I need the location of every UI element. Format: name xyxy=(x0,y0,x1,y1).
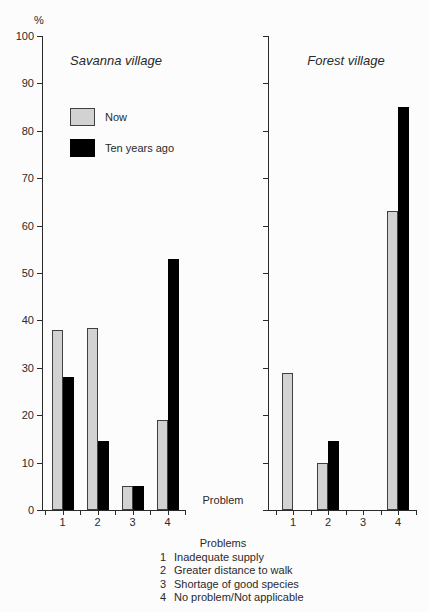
x-tick xyxy=(293,511,294,515)
y-axis xyxy=(42,36,43,510)
bar-now xyxy=(317,463,328,510)
x-tick xyxy=(80,511,81,515)
problem-key-label: Greater distance to walk xyxy=(174,564,293,576)
x-tick xyxy=(363,511,364,515)
problem-key-row: 2 Greater distance to walk xyxy=(140,564,293,576)
x-tick xyxy=(63,511,64,515)
x-tick xyxy=(115,511,116,515)
legend-now-label: Now xyxy=(105,111,127,123)
y-tick-label: 30 xyxy=(7,362,34,374)
x-category-label: 3 xyxy=(353,516,373,528)
chart-figure: 010203040506070809010012341234 % Savanna… xyxy=(0,0,429,612)
legend-ten-years-ago-row: Ten years ago xyxy=(70,138,174,157)
x-tick xyxy=(185,511,186,515)
y-tick xyxy=(263,510,268,511)
legend-ten-years-ago-label: Ten years ago xyxy=(105,142,174,154)
x-tick xyxy=(150,511,151,515)
bar-now xyxy=(157,420,168,510)
bar-now xyxy=(282,373,293,510)
problems-key-title: Problems xyxy=(161,537,285,549)
y-tick xyxy=(263,368,268,369)
bar-ten-years-ago xyxy=(98,441,109,510)
x-category-label: 2 xyxy=(88,516,108,528)
bar-ten-years-ago xyxy=(168,259,179,510)
y-tick-label: 100 xyxy=(7,30,34,42)
bar-ten-years-ago xyxy=(328,441,339,510)
y-tick-label: 40 xyxy=(7,314,34,326)
y-tick-label: 20 xyxy=(7,409,34,421)
y-tick xyxy=(37,320,42,321)
y-tick xyxy=(263,320,268,321)
x-axis xyxy=(42,510,186,511)
bar-now xyxy=(387,211,398,510)
y-tick xyxy=(37,36,42,37)
x-tick xyxy=(276,511,277,515)
bar-ten-years-ago xyxy=(398,107,409,510)
y-axis xyxy=(268,36,269,510)
x-category-label: 2 xyxy=(318,516,338,528)
y-tick xyxy=(263,273,268,274)
problem-key-row: 1 Inadequate supply xyxy=(140,551,264,563)
bar-now xyxy=(87,328,98,510)
legend-now-swatch xyxy=(70,108,95,126)
y-tick xyxy=(37,368,42,369)
y-tick-label: 10 xyxy=(7,457,34,469)
forest-title: Forest village xyxy=(268,53,424,68)
x-tick xyxy=(346,511,347,515)
y-tick xyxy=(37,83,42,84)
x-category-label: 3 xyxy=(123,516,143,528)
y-tick xyxy=(263,36,268,37)
y-tick-label: 0 xyxy=(7,504,34,516)
y-tick xyxy=(37,131,42,132)
problem-key-number: 1 xyxy=(140,551,166,563)
y-tick xyxy=(37,226,42,227)
x-tick xyxy=(398,511,399,515)
x-category-label: 1 xyxy=(53,516,73,528)
x-axis xyxy=(268,510,417,511)
bar-now xyxy=(122,486,133,510)
savanna-title: Savanna village xyxy=(42,53,190,68)
problem-key-number: 4 xyxy=(140,591,166,603)
problem-key-label: Shortage of good species xyxy=(174,578,299,590)
x-tick xyxy=(328,511,329,515)
x-tick xyxy=(45,511,46,515)
x-category-label: 4 xyxy=(388,516,408,528)
x-tick xyxy=(416,511,417,515)
y-tick xyxy=(263,463,268,464)
x-tick xyxy=(311,511,312,515)
x-category-label: 4 xyxy=(158,516,178,528)
problem-axis-label: Problem xyxy=(196,494,250,506)
chart-canvas: 010203040506070809010012341234 xyxy=(0,0,429,612)
x-category-label: 1 xyxy=(283,516,303,528)
y-axis-unit-label: % xyxy=(29,14,49,26)
legend-now-row: Now xyxy=(70,107,127,126)
legend-ten-years-ago-swatch xyxy=(70,139,95,157)
y-tick-label: 90 xyxy=(7,77,34,89)
y-tick-label: 50 xyxy=(7,267,34,279)
y-tick xyxy=(263,415,268,416)
y-tick xyxy=(37,415,42,416)
problem-key-number: 3 xyxy=(140,578,166,590)
x-tick xyxy=(133,511,134,515)
bar-ten-years-ago xyxy=(63,377,74,510)
x-tick xyxy=(98,511,99,515)
y-tick xyxy=(263,83,268,84)
bar-now xyxy=(52,330,63,510)
problem-key-number: 2 xyxy=(140,564,166,576)
y-tick xyxy=(37,178,42,179)
y-tick-label: 80 xyxy=(7,125,34,137)
problem-key-row: 3 Shortage of good species xyxy=(140,578,299,590)
y-tick xyxy=(37,273,42,274)
bar-ten-years-ago xyxy=(133,486,144,510)
y-tick xyxy=(263,131,268,132)
y-tick xyxy=(37,510,42,511)
y-tick xyxy=(263,178,268,179)
x-tick xyxy=(168,511,169,515)
problem-key-label: No problem/Not applicable xyxy=(174,591,304,603)
problem-key-label: Inadequate supply xyxy=(174,551,264,563)
y-tick xyxy=(37,463,42,464)
x-tick xyxy=(381,511,382,515)
y-tick-label: 70 xyxy=(7,172,34,184)
y-tick xyxy=(263,226,268,227)
y-tick-label: 60 xyxy=(7,220,34,232)
